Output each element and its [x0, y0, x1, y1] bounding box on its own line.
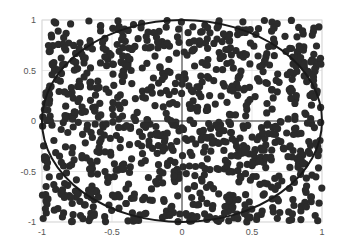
- data-point: [263, 109, 270, 116]
- data-point: [135, 35, 142, 42]
- data-point: [86, 166, 93, 173]
- data-point: [61, 194, 68, 201]
- data-point: [243, 102, 250, 109]
- data-point: [58, 126, 65, 133]
- data-point: [64, 129, 71, 136]
- data-point: [123, 62, 130, 69]
- data-point: [308, 102, 315, 109]
- data-point: [105, 89, 112, 96]
- data-point: [98, 136, 105, 143]
- data-point: [101, 53, 108, 60]
- data-point: [264, 180, 271, 187]
- data-point: [215, 166, 222, 173]
- data-point: [128, 155, 135, 162]
- data-point: [159, 147, 166, 154]
- data-point: [148, 185, 155, 192]
- data-point: [291, 100, 298, 107]
- data-point: [194, 107, 201, 114]
- data-point: [283, 129, 290, 136]
- data-point: [154, 130, 161, 137]
- data-point: [191, 182, 198, 189]
- data-point: [174, 192, 181, 199]
- data-point: [68, 218, 75, 225]
- data-point: [271, 52, 278, 59]
- data-point: [51, 207, 58, 214]
- data-point: [244, 122, 251, 129]
- data-point: [246, 96, 253, 103]
- data-point: [297, 216, 304, 223]
- data-point: [170, 172, 177, 179]
- data-point: [180, 126, 187, 133]
- data-point: [107, 52, 114, 59]
- data-point: [307, 58, 314, 65]
- data-point: [149, 90, 156, 97]
- data-point: [85, 17, 92, 24]
- data-point: [109, 71, 116, 78]
- data-point: [173, 101, 180, 108]
- data-point: [164, 39, 171, 46]
- data-point: [164, 162, 171, 169]
- data-point: [229, 135, 236, 142]
- data-point: [237, 67, 244, 74]
- data-point: [287, 85, 294, 92]
- data-point: [50, 181, 57, 188]
- data-point: [116, 193, 123, 200]
- data-point: [96, 144, 103, 151]
- data-point: [270, 208, 277, 215]
- data-point: [94, 78, 101, 85]
- data-point: [44, 159, 51, 166]
- data-point: [226, 168, 233, 175]
- data-point: [187, 105, 194, 112]
- data-point: [219, 66, 226, 73]
- data-point: [215, 190, 222, 197]
- data-point: [288, 45, 295, 52]
- data-point: [204, 62, 211, 69]
- data-point: [190, 37, 197, 44]
- data-point: [312, 173, 319, 180]
- data-point: [191, 172, 198, 179]
- data-point: [151, 102, 158, 109]
- data-point: [155, 161, 162, 168]
- data-point: [143, 116, 150, 123]
- data-point: [184, 185, 191, 192]
- data-point: [233, 143, 240, 150]
- data-point: [155, 80, 162, 87]
- data-point: [145, 174, 152, 181]
- data-point: [52, 149, 59, 156]
- data-point: [172, 80, 179, 87]
- data-point: [291, 125, 298, 132]
- data-point: [78, 152, 85, 159]
- data-point: [301, 109, 308, 116]
- data-point: [289, 210, 296, 217]
- data-point: [242, 191, 249, 198]
- data-point: [70, 211, 77, 218]
- data-point: [269, 131, 276, 138]
- data-point: [236, 135, 243, 142]
- data-point: [182, 210, 189, 217]
- data-point: [142, 157, 149, 164]
- data-point: [203, 134, 210, 141]
- data-point: [258, 147, 265, 154]
- data-point: [71, 156, 78, 163]
- data-point: [204, 155, 211, 162]
- data-point: [139, 64, 146, 71]
- x-tick-label: -1: [38, 227, 46, 237]
- data-point: [126, 56, 133, 63]
- data-point: [204, 106, 211, 113]
- data-point: [97, 27, 104, 34]
- data-point: [175, 26, 182, 33]
- data-point: [94, 171, 101, 178]
- data-point: [60, 119, 67, 126]
- data-point: [57, 78, 64, 85]
- data-point: [148, 44, 155, 51]
- data-point: [142, 95, 149, 102]
- data-point: [293, 92, 300, 99]
- data-point: [256, 78, 263, 85]
- data-point: [109, 105, 116, 112]
- data-point: [210, 185, 217, 192]
- data-point: [214, 24, 221, 31]
- data-point: [207, 148, 214, 155]
- data-point: [87, 97, 94, 104]
- data-point: [303, 189, 310, 196]
- data-point: [173, 138, 180, 145]
